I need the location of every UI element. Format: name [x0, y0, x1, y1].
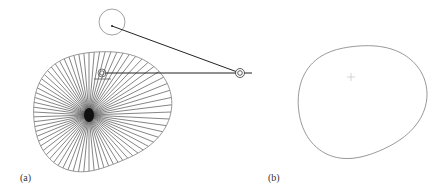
- pivot-outer: [236, 69, 245, 78]
- roller-circle: [99, 9, 125, 35]
- diagram-canvas: [0, 0, 428, 191]
- follower-arm-upper: [112, 26, 240, 73]
- panel-b-cam-profile: [298, 46, 427, 159]
- radial-line: [89, 90, 170, 115]
- radial-line: [89, 115, 158, 137]
- radial-line: [89, 115, 169, 119]
- panel-a-cam-construction: [34, 9, 252, 172]
- radial-line: [89, 115, 148, 146]
- radial-line: [89, 115, 154, 142]
- panel-label-a: (a): [20, 172, 31, 183]
- radial-line: [36, 93, 89, 115]
- cam-center-hub: [84, 108, 94, 122]
- small-roller-outer: [98, 69, 106, 77]
- radial-lines: [34, 52, 172, 172]
- panel-label-b: (b): [268, 172, 280, 183]
- cam-profile-b: [298, 46, 427, 159]
